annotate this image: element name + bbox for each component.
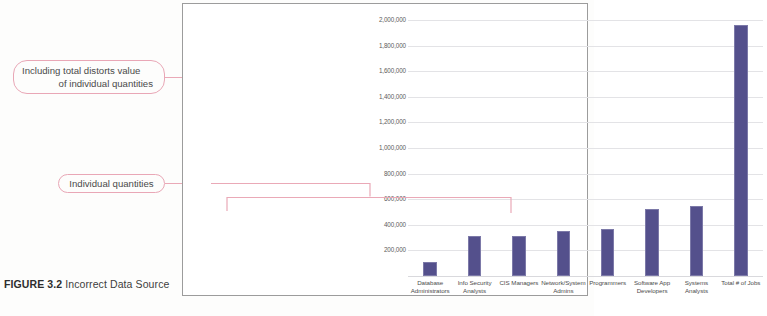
x-axis-labels: DatabaseAdministratorsInfo SecurityAnaly… bbox=[408, 279, 763, 301]
bar bbox=[645, 209, 659, 276]
y-tick-label: 1,200,000 bbox=[366, 118, 406, 125]
x-tick-label-line: Analysts bbox=[448, 287, 500, 295]
y-tick-label: 2,000,000 bbox=[366, 16, 406, 23]
axis-baseline bbox=[408, 276, 763, 277]
bar bbox=[601, 229, 615, 276]
callout-total-distorts: Including total distorts value of indivi… bbox=[13, 60, 165, 94]
x-tick-label-line: Total # of Jobs bbox=[715, 279, 767, 287]
callout-total-line1: Including total distorts value bbox=[22, 64, 155, 77]
y-tick-label: 1,400,000 bbox=[366, 93, 406, 100]
bar bbox=[468, 236, 482, 276]
y-tick-label: 1,600,000 bbox=[366, 67, 406, 74]
x-tick-label-line: Analysts bbox=[670, 287, 722, 295]
y-tick-label: 800,000 bbox=[366, 170, 406, 177]
callout-individual-label: Individual quantities bbox=[67, 178, 156, 190]
callout-individual-quantities: Individual quantities bbox=[58, 174, 165, 193]
bar bbox=[512, 236, 526, 276]
y-axis-labels: 200,000400,000600,000800,0001,000,0001,2… bbox=[366, 20, 406, 276]
gridline bbox=[408, 122, 763, 123]
gridline bbox=[408, 225, 763, 226]
y-tick-label: 1,000,000 bbox=[366, 144, 406, 151]
gridline bbox=[408, 250, 763, 251]
y-tick-label: 200,000 bbox=[366, 246, 406, 253]
bar bbox=[690, 206, 704, 276]
bar bbox=[423, 262, 437, 276]
figure-caption: FIGURE 3.2 Incorrect Data Source bbox=[4, 278, 179, 292]
figure-title: Incorrect Data Source bbox=[62, 278, 169, 290]
bar bbox=[557, 231, 571, 276]
gridline bbox=[408, 199, 763, 200]
chart-frame: 200,000400,000600,000800,0001,000,0001,2… bbox=[182, 3, 588, 296]
figure-number: FIGURE 3.2 bbox=[4, 278, 62, 290]
x-tick-label-line: Admins bbox=[537, 287, 589, 295]
gridline bbox=[408, 148, 763, 149]
y-tick-label: 1,800,000 bbox=[366, 42, 406, 49]
y-tick-label: 600,000 bbox=[366, 195, 406, 202]
gridline bbox=[408, 174, 763, 175]
gridline bbox=[408, 71, 763, 72]
plot-area bbox=[408, 20, 763, 276]
callout-total-line2: of individual quantities bbox=[22, 77, 155, 90]
bar bbox=[734, 25, 748, 276]
x-tick-label: Total # of Jobs bbox=[715, 279, 767, 287]
gridline bbox=[408, 20, 763, 21]
y-tick-label: 400,000 bbox=[366, 221, 406, 228]
gridline bbox=[408, 97, 763, 98]
gridline bbox=[408, 46, 763, 47]
